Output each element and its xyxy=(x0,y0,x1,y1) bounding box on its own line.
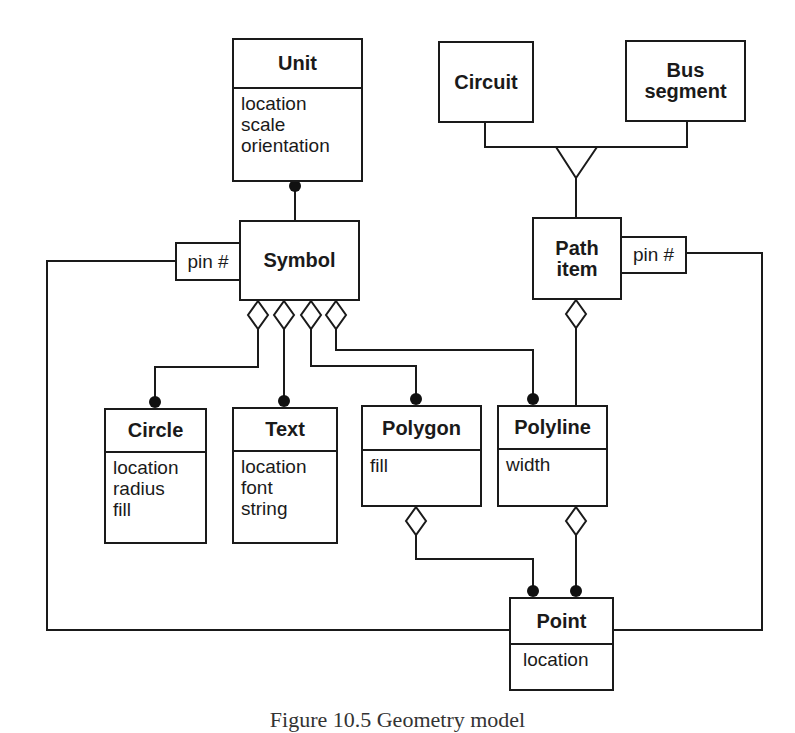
class-symbol[interactable]: Symbol xyxy=(239,220,360,301)
path-item-pin-qualifier[interactable]: pin # xyxy=(620,236,687,274)
aggregation-diamond-icon xyxy=(274,301,294,329)
aggregation-diamond-icon xyxy=(248,301,268,329)
symbol-polyline-link xyxy=(336,329,533,399)
class-path-item-name: Path item xyxy=(534,219,620,298)
class-text[interactable]: Text location font string xyxy=(232,407,338,544)
class-point-name: Point xyxy=(511,599,612,645)
attribute: location xyxy=(523,649,612,670)
aggregation-diamond-icon xyxy=(566,507,586,535)
many-dot-icon xyxy=(527,393,539,405)
class-path-item-name-line1: Path xyxy=(555,238,598,259)
class-unit-attributes: location scale orientation xyxy=(234,89,361,156)
pathitem-pin-point-link xyxy=(613,253,762,630)
class-bus-segment-name-line1: Bus xyxy=(667,60,705,81)
many-dot-icon xyxy=(410,393,422,405)
attribute: font xyxy=(241,477,336,498)
class-polyline-attributes: width xyxy=(499,450,606,475)
class-polygon-name: Polygon xyxy=(363,407,480,451)
many-dot-icon xyxy=(570,585,582,597)
class-bus-segment[interactable]: Bus segment xyxy=(625,40,746,122)
class-path-item-name-line2: item xyxy=(556,259,597,280)
class-circle-name: Circle xyxy=(106,410,205,453)
attribute: location xyxy=(241,456,336,477)
polygon-point-link xyxy=(416,535,533,591)
class-bus-segment-name: Bus segment xyxy=(627,42,744,120)
attribute: location xyxy=(113,457,205,478)
aggregation-diamond-icon xyxy=(301,301,321,329)
symbol-polygon-link xyxy=(311,329,416,399)
generalization-triangle-icon xyxy=(556,147,597,178)
class-polygon[interactable]: Polygon fill xyxy=(361,405,482,507)
class-circuit-name: Circuit xyxy=(440,43,532,121)
class-text-attributes: location font string xyxy=(234,452,336,519)
attribute: radius xyxy=(113,478,205,499)
attribute: string xyxy=(241,498,336,519)
attribute: location xyxy=(241,93,361,114)
attribute: fill xyxy=(113,499,205,520)
class-point-attributes: location xyxy=(511,645,612,670)
class-polyline[interactable]: Polyline width xyxy=(497,405,608,507)
generalization-bar xyxy=(485,121,687,147)
symbol-pin-qualifier[interactable]: pin # xyxy=(175,242,241,281)
aggregation-diamond-icon xyxy=(406,507,426,535)
class-symbol-name: Symbol xyxy=(241,222,358,299)
figure-caption: Figure 10.5 Geometry model xyxy=(0,707,795,733)
class-circuit[interactable]: Circuit xyxy=(438,41,534,123)
symbol-circle-link xyxy=(155,316,258,402)
class-path-item[interactable]: Path item xyxy=(532,217,622,300)
class-unit[interactable]: Unit location scale orientation xyxy=(232,38,363,182)
class-point[interactable]: Point location xyxy=(509,597,614,691)
aggregation-diamond-icon xyxy=(326,301,346,329)
attribute: fill xyxy=(370,455,480,476)
class-unit-name: Unit xyxy=(234,40,361,89)
many-dot-icon xyxy=(149,396,161,408)
class-polyline-name: Polyline xyxy=(499,407,606,450)
class-circle[interactable]: Circle location radius fill xyxy=(104,408,207,544)
aggregation-diamond-icon xyxy=(566,300,586,328)
attribute: scale xyxy=(241,114,361,135)
many-dot-icon xyxy=(527,585,539,597)
many-dot-icon xyxy=(278,395,290,407)
class-circle-attributes: location radius fill xyxy=(106,453,205,520)
class-bus-segment-name-line2: segment xyxy=(644,81,726,102)
attribute: width xyxy=(506,454,606,475)
class-text-name: Text xyxy=(234,409,336,452)
attribute: orientation xyxy=(241,135,361,156)
class-polygon-attributes: fill xyxy=(363,451,480,476)
